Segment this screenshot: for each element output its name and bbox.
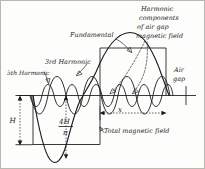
third-harmonic-label: 3rd Harmonic — [45, 58, 91, 66]
svg-text:Air: Air — [173, 66, 185, 74]
air-gap-label: Air gap — [173, 66, 185, 83]
fraction-denominator: π — [62, 128, 68, 137]
svg-text:magnetic field: magnetic field — [136, 32, 183, 40]
x-distance-label: x — [118, 105, 122, 114]
fraction-numerator: 4H — [58, 117, 71, 126]
figure-border — [1, 1, 205, 169]
harmonic-field-diagram: H 4H π x — [0, 0, 205, 169]
svg-text:of air gap: of air gap — [137, 23, 169, 31]
amplitude-H-label: H — [9, 116, 17, 125]
harmonic-components-label: Harmonic components of air gap magnetic … — [136, 5, 183, 40]
fundamental-leader — [116, 39, 132, 53]
x-distance-dimension — [100, 106, 167, 120]
fifth-harmonic-label: 5th Harmonic — [7, 69, 50, 76]
svg-text:Harmonic: Harmonic — [140, 5, 174, 13]
svg-text:gap: gap — [173, 75, 185, 83]
fundamental-label: Fundamental — [69, 31, 114, 39]
total-magnetic-field-label: Total magnetic field — [104, 127, 169, 135]
svg-text:components: components — [139, 14, 179, 22]
amplitude-H-dimension — [16, 96, 34, 146]
